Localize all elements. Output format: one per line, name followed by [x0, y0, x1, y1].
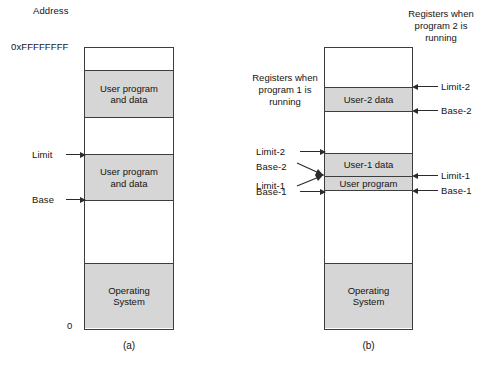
panel-b-caption: (b)	[324, 340, 413, 351]
panel-b-right-base-2-arrow-icon	[412, 106, 438, 115]
panel-a-segment-4	[85, 200, 173, 263]
panel-b-left-base-1-label: Base-1	[256, 186, 287, 198]
panel-a-base-arrow-icon	[66, 195, 86, 204]
panel-a-segment-0	[85, 48, 173, 70]
panel-a-memory-column: User program and data User program and d…	[84, 47, 174, 330]
panel-a-segment-2	[85, 117, 173, 154]
panel-b-left-base-2-label: Base-2	[256, 161, 287, 173]
panel-b-left-limit-2-arrow-icon	[300, 147, 326, 156]
panel-b-segment-6-label: Operating System	[348, 285, 390, 308]
panel-b-segment-2	[325, 111, 412, 153]
panel-b-segment-3-label: User-1 data	[344, 159, 394, 171]
panel-b-segment-4: User program	[325, 176, 412, 190]
panel-a-top-address: 0xFFFFFFFF	[11, 41, 68, 53]
panel-a-caption: (a)	[84, 340, 174, 351]
panel-a-limit-label: Limit	[32, 149, 53, 161]
panel-b-segment-1: User-2 data	[325, 87, 412, 111]
panel-b-segment-6: Operating System	[325, 263, 412, 328]
panel-a-bottom-address: 0	[67, 320, 72, 332]
panel-b-memory-column: User-2 data User-1 data User program Ope…	[324, 47, 413, 330]
panel-b-right-limit-2-label: Limit-2	[441, 81, 470, 93]
panel-a-segment-3: User program and data	[85, 154, 173, 200]
panel-b-segment-1-label: User-2 data	[344, 94, 394, 106]
panel-b-right-base-2-label: Base-2	[441, 105, 472, 117]
panel-b-segment-3: User-1 data	[325, 153, 412, 176]
panel-a-base-label: Base	[32, 194, 54, 206]
panel-a-segment-1: User program and data	[85, 70, 173, 117]
figure-root: Address 0xFFFFFFFF 0 User program and da…	[0, 0, 484, 368]
panel-b-left-note: Registers when program 1 is running	[248, 72, 322, 108]
address-axis-label: Address	[33, 5, 69, 17]
panel-b-right-limit-1-label: Limit-1	[441, 170, 470, 182]
panel-b-left-limit-2-label: Limit-2	[256, 146, 285, 158]
panel-a-segment-5: Operating System	[85, 263, 173, 328]
panel-b-right-limit-1-arrow-icon	[412, 171, 438, 180]
panel-b-segment-5	[325, 190, 412, 263]
panel-b-right-base-1-arrow-icon	[412, 186, 438, 195]
panel-b-right-note: Registers when program 2 is running	[404, 8, 478, 44]
panel-a-segment-3-label: User program and data	[100, 166, 158, 189]
panel-b-right-base-1-label: Base-1	[441, 185, 472, 197]
panel-b-right-limit-2-arrow-icon	[412, 82, 438, 91]
panel-b-segment-0	[325, 48, 412, 87]
panel-a-segment-1-label: User program and data	[100, 83, 158, 106]
panel-a-segment-5-label: Operating System	[108, 285, 150, 308]
panel-a-limit-arrow-icon	[66, 150, 86, 159]
panel-b-segment-4-label: User program	[339, 178, 397, 190]
panel-b-left-base-1-arrow-icon	[300, 187, 326, 196]
